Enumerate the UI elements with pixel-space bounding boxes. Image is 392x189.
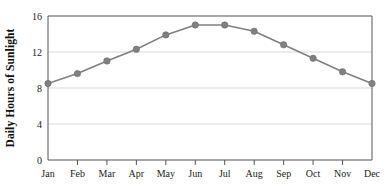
y-tick-label-0: 0 <box>37 155 42 166</box>
y-tick-label-16: 16 <box>32 11 42 22</box>
x-tick-label-jul: Jul <box>219 168 231 179</box>
data-point-mar <box>104 58 110 64</box>
x-tick-label-sep: Sep <box>276 168 291 179</box>
data-point-jul <box>222 22 228 28</box>
x-tick-label-nov: Nov <box>334 168 351 179</box>
y-tick-label-4: 4 <box>37 119 42 130</box>
x-tick-label-jun: Jun <box>188 168 202 179</box>
x-tick-label-aug: Aug <box>246 168 263 179</box>
x-tick-label-mar: Mar <box>99 168 116 179</box>
sunlight-line-chart: 0481216 JanFebMarAprMayJunJulAugSepOctNo… <box>0 0 392 189</box>
data-point-sep <box>280 42 286 48</box>
data-point-jun <box>192 22 198 28</box>
y-tick-label-12: 12 <box>32 47 42 58</box>
data-point-may <box>163 32 169 38</box>
data-point-oct <box>310 55 316 61</box>
y-tick-label-8: 8 <box>37 83 42 94</box>
chart-canvas: 0481216 JanFebMarAprMayJunJulAugSepOctNo… <box>0 0 392 189</box>
data-point-apr <box>133 46 139 52</box>
data-point-aug <box>251 28 257 34</box>
x-tick-label-dec: Dec <box>364 168 381 179</box>
x-tick-label-oct: Oct <box>306 168 321 179</box>
x-tick-label-may: May <box>157 168 175 179</box>
data-point-feb <box>74 70 80 76</box>
data-point-nov <box>339 69 345 75</box>
data-point-dec <box>369 80 375 86</box>
x-tick-label-jan: Jan <box>41 168 54 179</box>
y-axis-title: Daily Hours of Sunlight <box>4 28 17 147</box>
data-point-jan <box>45 80 51 86</box>
x-tick-label-feb: Feb <box>70 168 85 179</box>
x-tick-label-apr: Apr <box>129 168 145 179</box>
